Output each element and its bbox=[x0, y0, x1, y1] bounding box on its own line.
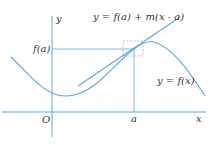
curve-equation: y = f(x) bbox=[157, 76, 195, 86]
tangent-equation: y = f(a) + m(x - a) bbox=[93, 12, 184, 22]
fa-label: f(a) bbox=[33, 44, 50, 54]
x-axis-label: x bbox=[196, 114, 202, 124]
y-axis-label: y bbox=[56, 14, 62, 24]
a-label: a bbox=[131, 114, 137, 124]
origin-label: O bbox=[42, 115, 50, 125]
